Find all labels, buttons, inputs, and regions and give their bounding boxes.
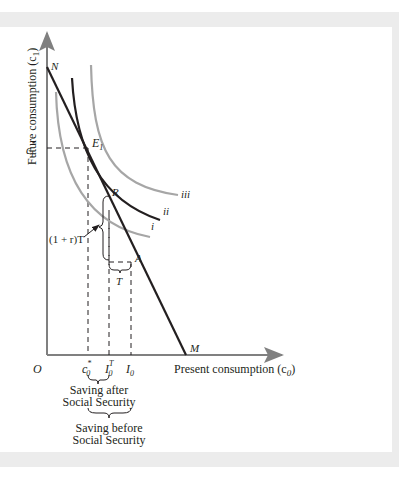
transfer-brace	[109, 264, 131, 273]
x-tick-I0-T: IT0	[104, 359, 114, 378]
y-tick-c1-star: c*1	[26, 140, 35, 159]
transfer-label: T	[116, 275, 123, 287]
consumption-diagram: Future consumption (c1) Present consumpt…	[0, 0, 411, 479]
transfer-future-arrow	[84, 225, 99, 237]
x-axis-label: Present consumption (c0)	[174, 362, 295, 378]
x-tick-I0: I0	[125, 362, 134, 378]
indifference-curve-iii	[91, 65, 178, 195]
transfer-future-label: (1 + r)T	[49, 233, 84, 246]
point-N-label: N	[50, 60, 59, 72]
curve-ii-label: ii	[163, 205, 169, 217]
saving-before-brace	[88, 408, 131, 418]
point-A-label: A	[134, 252, 142, 264]
origin-label: O	[33, 362, 42, 376]
saving-before-label-2: Social Security	[73, 433, 146, 447]
transfer-future-brace	[99, 196, 109, 260]
curve-iii-label: iii	[181, 188, 190, 200]
saving-after-label-2: Social Security	[63, 395, 136, 409]
point-M-label: M	[189, 342, 200, 354]
x-tick-c0-star: c*0	[82, 359, 91, 378]
curve-i-label: i	[151, 220, 154, 232]
point-R-label: R	[111, 186, 119, 198]
